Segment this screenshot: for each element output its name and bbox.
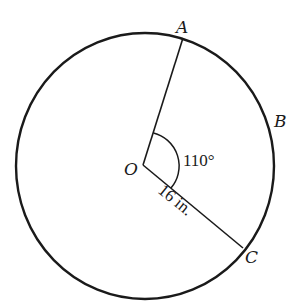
- radius-label: 16 in.: [154, 180, 196, 219]
- angle-label: 110°: [183, 151, 215, 170]
- circle-diagram: A B C O 110° 16 in.: [0, 0, 296, 306]
- label-point-c: C: [245, 247, 258, 267]
- label-center-o: O: [124, 159, 138, 179]
- label-point-a: A: [174, 17, 188, 37]
- radius-oa: [143, 38, 183, 165]
- label-point-b: B: [273, 111, 287, 131]
